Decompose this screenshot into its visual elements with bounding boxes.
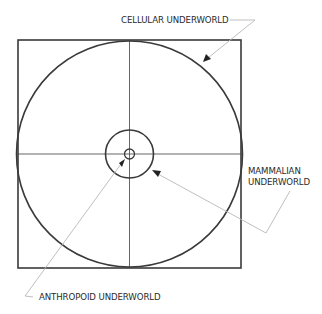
mammalian-underworld-label-line2: UNDERWORLD: [248, 177, 310, 188]
mammalian-arrowhead-icon: [152, 170, 161, 177]
cellular-underworld-label: CELLULAR UNDERWORLD: [121, 15, 229, 26]
anthropoid-underworld-label: ANTHROPOID UNDERWORLD: [39, 292, 161, 303]
mammalian-underworld-label-line1: MAMMALIAN: [248, 166, 301, 177]
anthropoid-leader-line: [25, 164, 121, 297]
underworld-diagram: [0, 0, 322, 314]
cellular-arrowhead-icon: [203, 54, 211, 62]
